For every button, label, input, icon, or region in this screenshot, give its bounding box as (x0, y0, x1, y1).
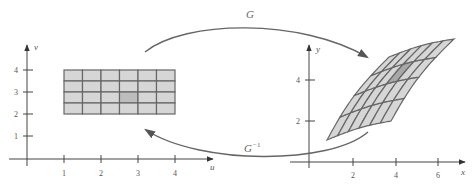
grid-cell (64, 92, 83, 103)
grid-cell (64, 70, 83, 81)
grid-cell (157, 70, 176, 81)
grid-cell (138, 81, 157, 92)
v-tick-label: 2 (14, 110, 18, 119)
x-tick-label: 2 (351, 171, 355, 180)
xy-plane: 2 4 6 x 2 4 y (290, 39, 465, 180)
x-axis-label: x (460, 167, 465, 177)
y-axis-label: y (315, 44, 320, 54)
grid-cell (83, 81, 102, 92)
x-axis-ticks: 2 4 6 (351, 158, 440, 180)
grid-cell (101, 92, 120, 103)
grid-cell (83, 92, 102, 103)
grid-cell (157, 92, 176, 103)
y-tick-label: 2 (296, 117, 300, 126)
grid-cell (101, 81, 120, 92)
v-tick-label: 1 (14, 132, 18, 141)
v-axis-label: v (34, 42, 38, 52)
grid-cell (64, 103, 83, 114)
grid-cell (64, 81, 83, 92)
y-axis-ticks: 2 4 (296, 76, 315, 126)
u-axis-ticks: 1 2 3 4 (62, 155, 177, 178)
v-tick-label: 4 (14, 66, 18, 75)
svg-text:−1: −1 (253, 141, 261, 149)
grid-cell (157, 103, 176, 114)
u-tick-label: 1 (62, 169, 66, 178)
grid-cell (101, 70, 120, 81)
grid-cell (120, 92, 139, 103)
grid-cell (83, 103, 102, 114)
grid-cell (120, 70, 139, 81)
v-tick-label: 3 (14, 88, 18, 97)
u-tick-label: 4 (173, 169, 177, 178)
y-tick-label: 4 (296, 76, 300, 85)
uv-rectangle-grid (64, 70, 175, 114)
forward-map-label: G (246, 8, 254, 20)
grid-cell (120, 103, 139, 114)
forward-map-arrow (145, 28, 367, 57)
grid-cell (138, 103, 157, 114)
uv-plane: 1 2 3 4 u 1 2 3 4 v (9, 42, 215, 178)
u-tick-label: 3 (136, 169, 140, 178)
grid-cell (138, 70, 157, 81)
x-tick-label: 4 (394, 171, 398, 180)
u-axis-label: u (210, 162, 215, 172)
grid-cell (120, 81, 139, 92)
change-of-variables-figure: 1 2 3 4 u 1 2 3 4 v 2 4 6 (0, 0, 474, 186)
grid-cell (83, 70, 102, 81)
xy-warped-region-grid (327, 39, 454, 140)
x-tick-label: 6 (436, 171, 440, 180)
grid-cell (138, 92, 157, 103)
v-axis-ticks: 1 2 3 4 (14, 66, 33, 141)
u-tick-label: 2 (99, 169, 103, 178)
svg-text:G: G (244, 142, 252, 154)
inverse-map-label: G −1 (244, 141, 261, 154)
grid-cell (101, 103, 120, 114)
grid-cell (157, 81, 176, 92)
